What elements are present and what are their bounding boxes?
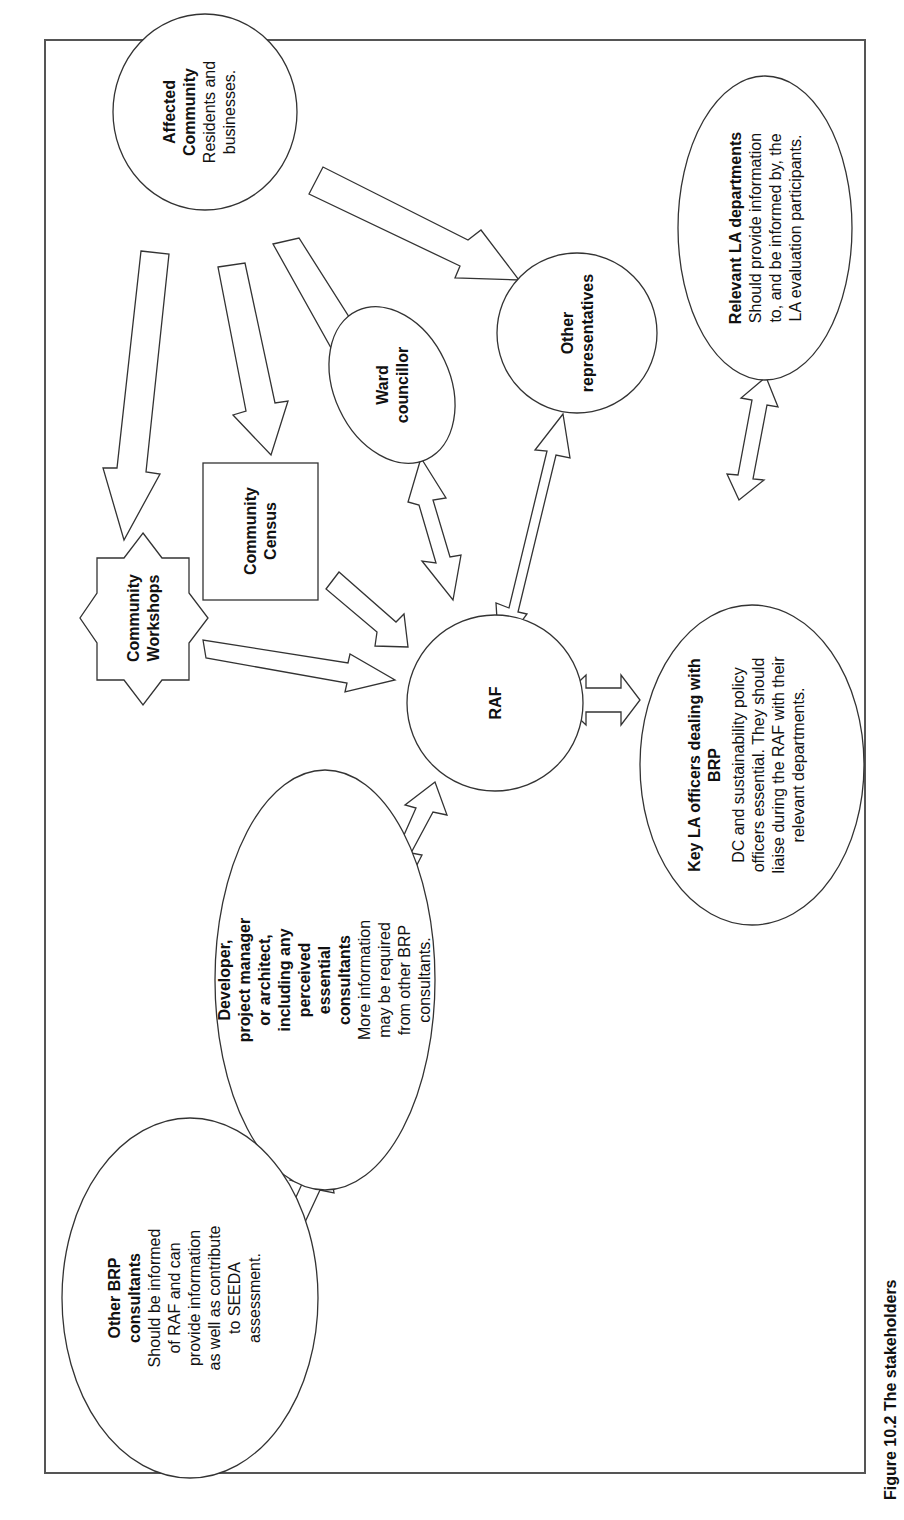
svg-text:BRP: BRP [706,748,723,782]
svg-text:consultants: consultants [336,935,353,1025]
svg-text:Community: Community [125,574,142,662]
stakeholder-diagram: Affected Community Residents and busines… [0,0,904,1520]
arrow-workshops-to-raf [203,640,395,692]
svg-text:including any: including any [276,928,293,1031]
svg-text:officers essential. They shoul: officers essential. They should [750,658,767,873]
svg-text:DC and sustainability policy: DC and sustainability policy [730,667,747,863]
arrow-ward-raf [408,458,461,600]
node-community-census [203,463,318,600]
node-community-workshops [80,533,208,705]
label-raf: RAF [487,686,504,719]
svg-text:Affected: Affected [161,80,178,144]
svg-text:or architect,: or architect, [256,934,273,1026]
svg-text:Ward: Ward [374,365,391,404]
svg-text:Workshops: Workshops [145,574,162,661]
svg-text:relevant departments.: relevant departments. [790,688,807,843]
node-other-representatives [497,253,657,413]
arrow-census-to-raf [326,572,408,647]
arrow-affected-to-census [218,263,288,455]
svg-text:Should provide information: Should provide information [747,133,764,323]
svg-text:consultants.: consultants. [416,937,433,1022]
svg-text:Developer,: Developer, [216,940,233,1021]
svg-text:project manager: project manager [236,918,253,1042]
arrow-affected-to-otherreps [309,167,519,280]
svg-text:Community: Community [181,68,198,156]
svg-text:Residents and: Residents and [201,61,218,163]
svg-text:liaise during the RAF with the: liaise during the RAF with their [770,656,787,874]
svg-text:Figure 10.2 The stakeholders: Figure 10.2 The stakeholders [882,1279,899,1500]
svg-text:LA evaluation participants.: LA evaluation participants. [787,135,804,322]
svg-text:Key LA officers dealing with: Key LA officers dealing with [686,658,703,872]
svg-text:assessment.: assessment. [246,1253,263,1343]
svg-text:More information: More information [356,920,373,1040]
figure-caption: Figure 10.2 The stakeholders [882,1279,899,1500]
svg-text:RAF: RAF [487,686,504,719]
svg-text:of RAF and can: of RAF and can [166,1242,183,1353]
svg-text:as well as contribute: as well as contribute [206,1225,223,1370]
svg-text:consultants: consultants [126,1253,143,1343]
node-relevant-la-departments [678,76,852,380]
svg-text:provide information: provide information [186,1230,203,1366]
svg-text:perceived: perceived [296,943,313,1018]
svg-text:Other BRP: Other BRP [106,1257,123,1338]
svg-text:Census: Census [262,502,279,560]
svg-text:Other: Other [559,312,576,355]
svg-text:to SEEDA: to SEEDA [226,1262,243,1334]
svg-text:councillor: councillor [394,347,411,423]
svg-text:representatives: representatives [579,274,596,392]
svg-text:to, and be informed by, the: to, and be informed by, the [767,133,784,322]
svg-text:Community: Community [242,487,259,575]
svg-text:Should be informed: Should be informed [146,1229,163,1368]
arrow-affected-to-workshops [103,251,169,540]
svg-text:businesses.: businesses. [221,70,238,155]
svg-text:Relevant LA departments: Relevant LA departments [727,132,744,324]
svg-text:essential: essential [316,946,333,1014]
arrow-keyla-relevantla [727,377,778,500]
svg-text:from other BRP: from other BRP [396,925,413,1035]
svg-text:may be required: may be required [376,922,393,1038]
